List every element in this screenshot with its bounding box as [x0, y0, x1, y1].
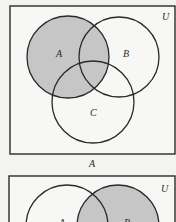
venn-diagrams: U A B C A U A B: [0, 0, 176, 222]
venn-diagram-1: U A B C A: [10, 6, 175, 169]
venn-diagram-2: U A B: [9, 176, 175, 222]
universe-label: U: [162, 11, 170, 22]
set-c-label: C: [90, 107, 97, 118]
diagram-caption: A: [88, 158, 96, 169]
universe-label: U: [161, 183, 169, 194]
set-a-label: A: [58, 217, 66, 222]
set-b-label: B: [123, 48, 129, 59]
set-b-label: B: [124, 217, 130, 222]
set-a-label: A: [55, 48, 63, 59]
